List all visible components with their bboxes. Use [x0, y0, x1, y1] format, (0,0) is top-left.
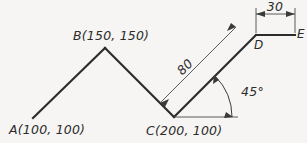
angle-arc [215, 76, 232, 117]
dimension-angle-label: 45° [241, 84, 264, 99]
label-point-b: B(150, 150) [73, 28, 149, 43]
dimension-30-label: 30 [267, 0, 284, 14]
label-point-a: A(100, 100) [8, 122, 85, 137]
label-point-c: C(200, 100) [146, 123, 222, 138]
dimension-80-label: 80 [174, 56, 196, 78]
segment-a-b [33, 48, 105, 118]
dimension-angle-45: 45° [213, 75, 264, 118]
point-labels: A(100, 100) B(150, 150) C(200, 100) D E [8, 27, 305, 138]
arrowhead-80-end [227, 23, 236, 31]
technical-drawing-canvas: 80 30 45° A(100, 100) B(150, 150) C(200,… [0, 0, 307, 143]
label-point-e: E [297, 27, 305, 41]
arrowhead-30-start [256, 11, 265, 17]
segment-b-c [105, 48, 174, 117]
label-point-d: D [254, 38, 263, 52]
arrowhead-30-end [286, 11, 295, 17]
dimension-30: 30 [256, 0, 295, 33]
